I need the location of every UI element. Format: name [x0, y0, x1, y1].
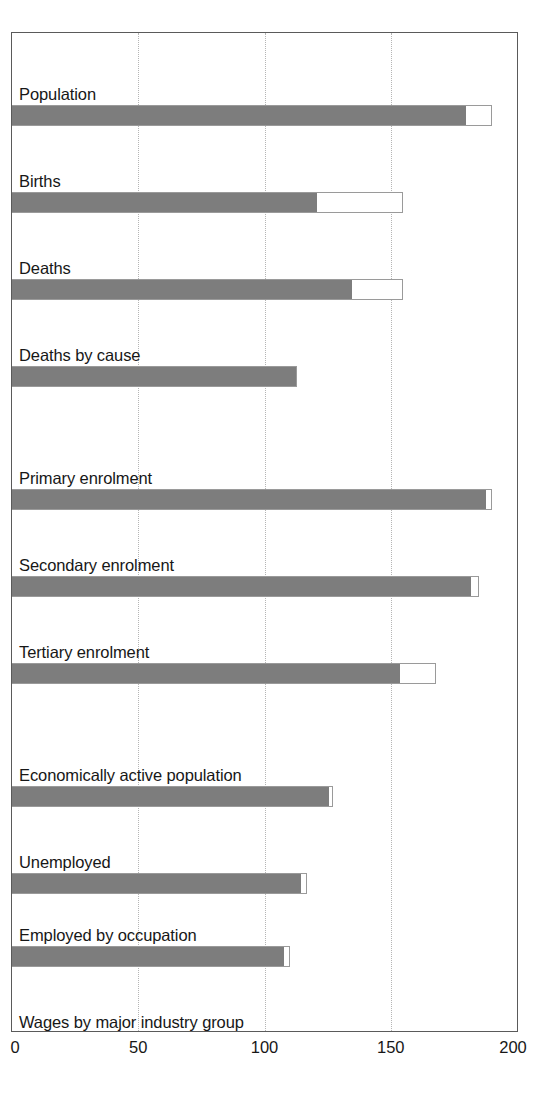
bar-fill	[12, 664, 400, 683]
bar-total-outline	[12, 366, 297, 387]
bar-total-outline	[12, 663, 436, 684]
bar-row: Births	[12, 169, 517, 213]
bar-row: Employed by occupation	[12, 923, 517, 967]
bar-fill	[12, 193, 317, 212]
bar-row: Tertiary enrolment	[12, 640, 517, 684]
bar-row: Economically active population	[12, 763, 517, 807]
bar-total-outline	[12, 576, 479, 597]
bar-label: Primary enrolment	[19, 469, 152, 488]
bar-fill	[12, 490, 486, 509]
x-tick-label-50: 50	[129, 1038, 147, 1057]
bar-fill	[12, 280, 352, 299]
bar-row: Unemployed	[12, 850, 517, 894]
bar-total-outline	[12, 786, 333, 807]
bar-row: Deaths by cause	[12, 343, 517, 387]
bar-fill	[12, 947, 284, 966]
x-tick-label-0: 0	[10, 1038, 19, 1057]
bar-total-outline	[12, 489, 492, 510]
bar-total-outline	[12, 105, 492, 126]
bar-rows: PopulationBirthsDeathsDeaths by causePri…	[12, 33, 517, 1031]
bar-total-outline	[12, 946, 290, 967]
bar-fill	[12, 577, 471, 596]
bar-total-outline	[12, 192, 403, 213]
bar-label: Deaths	[19, 259, 71, 278]
x-tick-label-200: 200	[499, 1038, 527, 1057]
bar-fill	[12, 874, 301, 893]
bar-fill	[12, 106, 466, 125]
bar-label: Population	[19, 85, 96, 104]
bar-row: Wages by major industry group	[12, 1010, 517, 1032]
plot-area: PopulationBirthsDeathsDeaths by causePri…	[11, 32, 518, 1032]
bar-fill	[12, 787, 329, 806]
bar-label: Births	[19, 172, 61, 191]
bar-label: Secondary enrolment	[19, 556, 174, 575]
chart-figure: PopulationBirthsDeathsDeaths by causePri…	[0, 0, 539, 1094]
bar-label: Deaths by cause	[19, 346, 140, 365]
bar-row: Population	[12, 82, 517, 126]
x-tick-label-150: 150	[377, 1038, 405, 1057]
x-axis: 050100150200	[11, 1032, 518, 1072]
bar-total-outline	[12, 279, 403, 300]
bar-label: Unemployed	[19, 853, 111, 872]
bar-total-outline	[12, 873, 307, 894]
bar-row: Deaths	[12, 256, 517, 300]
bar-label: Wages by major industry group	[19, 1013, 244, 1032]
x-tick-label-100: 100	[251, 1038, 279, 1057]
bar-row: Primary enrolment	[12, 466, 517, 510]
bar-label: Economically active population	[19, 766, 242, 785]
bar-row: Secondary enrolment	[12, 553, 517, 597]
bar-label: Employed by occupation	[19, 926, 197, 945]
bar-fill	[12, 367, 296, 386]
bar-label: Tertiary enrolment	[19, 643, 149, 662]
